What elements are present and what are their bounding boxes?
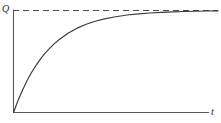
y-axis-label: Q — [2, 4, 9, 14]
saturation-curve — [14, 11, 219, 113]
plot-area — [0, 0, 221, 123]
x-axis-label: t — [211, 107, 214, 117]
figure-container: Q t — [0, 0, 221, 123]
